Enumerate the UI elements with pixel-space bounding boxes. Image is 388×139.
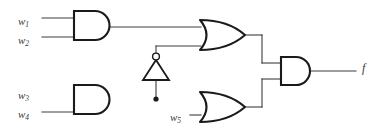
label-w4: w4 bbox=[18, 105, 29, 122]
or-gate-top bbox=[200, 20, 245, 50]
label-w1: w1 bbox=[18, 12, 29, 29]
and-gate-bottom bbox=[74, 85, 110, 114]
circuit-diagram-canvas: w1 w2 w3 w4 w5 f bbox=[0, 0, 388, 139]
and-gate-top bbox=[74, 11, 110, 40]
label-w3: w3 bbox=[18, 86, 29, 103]
not-gate-triangle bbox=[143, 60, 169, 80]
circuit-svg bbox=[0, 0, 388, 139]
not-gate-bubble-icon bbox=[153, 53, 160, 60]
label-output-f: f bbox=[362, 62, 365, 74]
or-gate-bottom bbox=[200, 92, 245, 122]
label-w5: w5 bbox=[170, 108, 181, 125]
label-w2: w2 bbox=[18, 31, 29, 48]
and-gate-output bbox=[281, 57, 310, 85]
junction-dot bbox=[153, 96, 158, 101]
